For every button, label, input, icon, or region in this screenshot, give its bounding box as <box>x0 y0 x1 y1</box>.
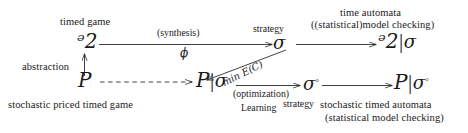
node-sigma-glyph: σ <box>273 32 285 53</box>
node-sigma-glyph: σ <box>215 70 227 91</box>
arrow-label-optimization: (optimization) <box>233 89 289 99</box>
arrow-label-synthesis: (synthesis) <box>157 28 199 38</box>
caption-time-automata: time automata <box>340 8 401 19</box>
node-p-glyph: P <box>78 68 91 92</box>
node-p-restricted-sigma-circ: P|σ◦ <box>394 72 429 93</box>
arrow-label-learning: Learning <box>241 103 276 113</box>
node-sigma-glyph: σ <box>404 31 416 52</box>
node-sigma-glyph: σ <box>303 73 315 94</box>
node-p-glyph: P <box>394 70 407 94</box>
caption-timed-game: timed game <box>60 17 110 28</box>
arrow-label-phi: ϕ <box>180 47 188 59</box>
node-p-glyph: P <box>196 68 209 92</box>
commutative-diagram-figure: P|sigma --> timed game time automata ((s… <box>0 0 468 133</box>
node-strategy-sigma: σ <box>273 34 285 52</box>
caption-stochastic-timed-automata: stochastic timed automata <box>320 100 432 111</box>
node-g-restricted-sigma: ᵊ2|σ <box>378 31 416 52</box>
node-priced-game-p: P <box>78 70 91 90</box>
node-p-restricted-sigma: P|σ <box>196 70 227 91</box>
caption-stochastic-priced-timed-game: stochastic priced timed game <box>8 100 133 111</box>
node-game-g: ᵊ2 <box>77 31 97 51</box>
degree-superscript-icon: ◦ <box>315 74 319 86</box>
caption-model-checking: ((statistical)model checking) <box>311 20 434 31</box>
caption-statistical-model-checking: (statistical model checking) <box>325 113 444 124</box>
degree-superscript-icon: ◦ <box>425 73 429 85</box>
node-g-glyph: ᵊ2 <box>378 29 398 53</box>
caption-abstraction: abstraction <box>22 62 69 73</box>
node-strategy-sigma-circ: σ◦ <box>303 75 319 93</box>
arrow-label-strategy-bottom: strategy <box>283 99 314 109</box>
node-sigma-glyph: σ <box>413 72 425 93</box>
node-g-glyph: ᵊ2 <box>77 29 97 53</box>
